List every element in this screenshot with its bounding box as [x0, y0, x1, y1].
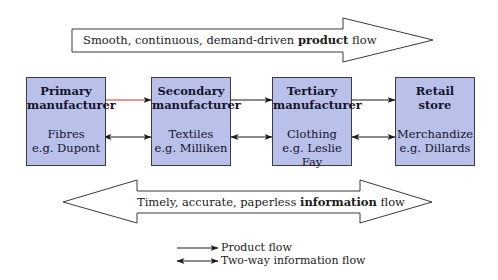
- box-title: Primarymanufacturer: [27, 84, 105, 112]
- box-retail-store: Retailstore Merchandizee.g. Dillards: [395, 77, 475, 166]
- box-tertiary-manufacturer: Tertiarymanufacturer Clothinge.g. Leslie…: [272, 77, 352, 166]
- box-subtitle: Textilese.g. Milliken: [152, 127, 230, 155]
- box-subtitle: Clothinge.g. Leslie Fay: [273, 127, 351, 169]
- box-title: Secondarymanufacturer: [152, 84, 230, 112]
- legend-product-flow-label: Product flow: [221, 241, 292, 254]
- box-primary-manufacturer: Primarymanufacturer Fibrese.g. Dupont: [26, 77, 106, 166]
- product-flow-label: Smooth, continuous, demand-driven produc…: [83, 33, 376, 47]
- information-flow-label: Timely, accurate, paperless information …: [137, 195, 405, 209]
- box-title: Retailstore: [396, 84, 474, 112]
- box-title: Tertiarymanufacturer: [273, 84, 351, 112]
- box-subtitle: Merchandizee.g. Dillards: [396, 127, 474, 155]
- legend-information-flow-label: Two-way information flow: [221, 254, 365, 267]
- box-secondary-manufacturer: Secondarymanufacturer Textilese.g. Milli…: [151, 77, 231, 166]
- box-subtitle: Fibrese.g. Dupont: [27, 127, 105, 155]
